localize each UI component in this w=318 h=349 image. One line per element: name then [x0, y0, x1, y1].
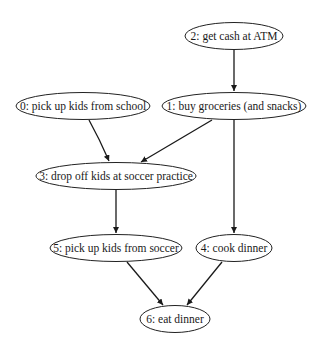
node-label: 0: pick up kids from school [20, 100, 146, 113]
node-0: 0: pick up kids from school [16, 93, 150, 120]
edge-1-to-3 [141, 120, 212, 162]
node-label: 3: drop off kids at soccer practice [39, 170, 193, 183]
node-label: 1: buy groceries (and snacks) [167, 100, 302, 113]
node-label: 6: eat dinner [146, 313, 204, 325]
edge-0-to-3 [89, 120, 109, 161]
node-label: 4: cook dinner [201, 242, 268, 254]
node-6: 6: eat dinner [140, 306, 210, 333]
node-5: 5: pick up kids from soccer [50, 235, 182, 262]
edge-5-to-6 [127, 262, 163, 305]
node-3: 3: drop off kids at soccer practice [36, 163, 196, 190]
edge-4-to-6 [187, 262, 222, 305]
node-label: 2: get cash at ATM [191, 30, 278, 43]
task-dependency-graph: 0: pick up kids from school 1: buy groce… [0, 0, 318, 349]
node-2: 2: get cash at ATM [185, 23, 283, 50]
node-1: 1: buy groceries (and snacks) [162, 93, 306, 120]
node-label: 5: pick up kids from soccer [53, 242, 179, 255]
node-4: 4: cook dinner [196, 235, 272, 262]
